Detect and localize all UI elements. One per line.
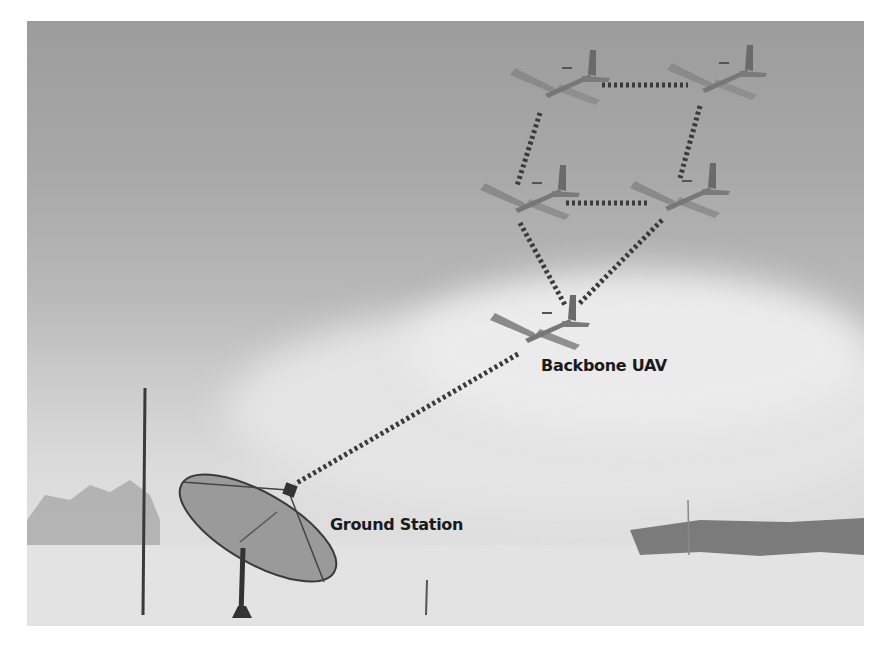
diagram-overlay	[0, 0, 887, 648]
uav-top-left-icon	[510, 50, 610, 105]
backbone-uav-label: Backbone UAV	[541, 356, 667, 375]
stake	[688, 500, 689, 555]
network-links	[295, 85, 700, 484]
ground-station-label: Ground Station	[330, 515, 463, 534]
uav-backbone-icon	[490, 295, 590, 350]
stake	[426, 580, 427, 615]
pole	[143, 388, 145, 615]
ground	[27, 545, 864, 626]
uav-top-right-icon	[667, 45, 767, 100]
uav-mid-left-icon	[480, 165, 580, 220]
mountains	[27, 480, 160, 552]
rock-ridge	[630, 518, 864, 556]
